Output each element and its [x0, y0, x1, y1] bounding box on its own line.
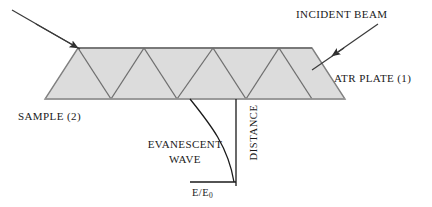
- label-incident-beam: INCIDENT BEAM: [296, 8, 387, 21]
- label-evanescent-wave: EVANESCENT WAVE: [143, 137, 227, 167]
- label-sample: SAMPLE (2): [18, 110, 81, 123]
- label-e-ratio-main: E/E: [192, 187, 209, 198]
- label-evanescent-wave-line2: WAVE: [143, 152, 227, 167]
- atr-diagram: INCIDENT BEAM ATR PLATE (1) SAMPLE (2) E…: [0, 0, 432, 207]
- label-evanescent-wave-line1: EVANESCENT: [143, 137, 227, 152]
- atr-diagram-canvas: [0, 0, 432, 207]
- incident-beam-left-ray-tail: [36, 24, 80, 49]
- label-distance: DISTANCE: [247, 105, 260, 161]
- label-e-ratio-subscript: 0: [209, 191, 213, 200]
- label-atr-plate: ATR PLATE (1): [334, 72, 411, 85]
- label-e-ratio: E/E0: [192, 186, 213, 200]
